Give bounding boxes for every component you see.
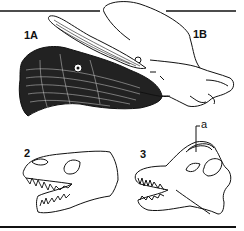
figure-label-1b: 1B: [193, 29, 207, 40]
annotation-label-a: a: [201, 119, 207, 130]
figure-label-1a: 1A: [24, 30, 38, 41]
figure-label-3: 3: [140, 149, 146, 160]
figure-label-2: 2: [24, 148, 30, 159]
skull-2-drawing: [23, 151, 118, 213]
skull-3-drawing: [135, 126, 231, 214]
head-1a-drawing: [19, 16, 170, 116]
skull-comparison-figure: 1A 1B 2 3 a: [0, 0, 244, 231]
